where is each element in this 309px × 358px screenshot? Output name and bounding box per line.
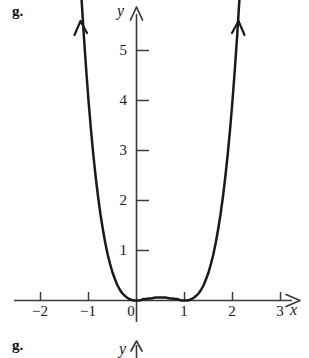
function-curve bbox=[81, 0, 239, 301]
x-tick-label-0: 0 bbox=[118, 303, 144, 320]
y-tick-label-4: 4 bbox=[107, 92, 127, 109]
x-tick-label-2: 2 bbox=[219, 303, 245, 320]
next-figure-stub bbox=[131, 341, 142, 358]
x-tick-label-3: 3 bbox=[267, 303, 293, 320]
y-tick-label-3: 3 bbox=[107, 142, 127, 159]
y-axis-ticks bbox=[137, 51, 150, 251]
x-tick-label--2: −2 bbox=[27, 303, 53, 320]
figure-container: g. y x bbox=[0, 0, 309, 358]
y-tick-label-5: 5 bbox=[107, 42, 127, 59]
left-branch-arrowhead bbox=[75, 21, 88, 35]
next-part-label-g: g. bbox=[12, 337, 23, 354]
next-y-axis-label: y bbox=[119, 340, 126, 358]
y-tick-label-2: 2 bbox=[107, 192, 127, 209]
x-tick-label-1: 1 bbox=[171, 303, 197, 320]
y-tick-label-1: 1 bbox=[107, 242, 127, 259]
x-tick-label--1: −1 bbox=[75, 303, 101, 320]
